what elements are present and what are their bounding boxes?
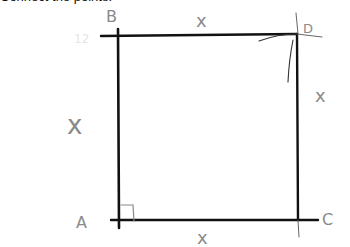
square-construction-diagram: 12 B D A C x x x x: [0, 0, 350, 247]
vertical-extension-c: [298, 220, 299, 237]
vertex-label-a: A: [76, 213, 87, 232]
vertex-label-d: D: [303, 21, 313, 36]
vertex-label-c: C: [322, 210, 333, 229]
side-label-left: x: [67, 110, 82, 140]
side-bd: [101, 34, 297, 36]
side-ba: [118, 29, 119, 228]
faint-note: 12: [74, 32, 89, 46]
square-outline: [101, 29, 318, 228]
right-angle-marker: [121, 205, 134, 221]
construction-marks: [121, 13, 322, 237]
side-label-right: x: [315, 85, 326, 106]
side-label-bottom: x: [197, 227, 208, 247]
vertical-extension-d: [296, 13, 298, 34]
vertex-label-b: B: [106, 7, 117, 26]
compass-arc-right: [288, 40, 293, 82]
side-dc: [297, 34, 298, 220]
side-label-top: x: [196, 10, 207, 31]
